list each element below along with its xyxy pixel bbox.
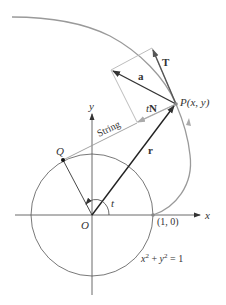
radius-OQ: [63, 160, 92, 215]
point-P: [174, 102, 178, 106]
label-vector-a: a: [138, 70, 144, 82]
label-P: P(x, y): [179, 96, 210, 109]
label-origin: O: [81, 219, 89, 231]
label-circle-equation: x2 + y2 = 1: [140, 252, 183, 264]
vector-r: [92, 106, 174, 215]
point-Q: [61, 158, 65, 162]
label-1-0: (1, 0): [157, 216, 179, 228]
angle-arc-q: [86, 199, 102, 204]
label-x-axis: x: [204, 209, 210, 221]
label-string: String: [95, 118, 122, 139]
label-angle-t: t: [111, 197, 115, 209]
curve-direction-arrow: [186, 118, 191, 126]
label-vector-T: T: [162, 56, 170, 68]
label-vector-tN: tN: [146, 102, 157, 114]
involute-diagram: P(x, y) Q O (1, 0) x y t r T a tN String…: [0, 0, 226, 305]
label-Q: Q: [56, 145, 64, 157]
angle-arc-t: [102, 201, 109, 215]
label-vector-r: r: [148, 144, 153, 156]
label-y-axis: y: [88, 100, 94, 112]
point-1-0: [151, 213, 155, 217]
